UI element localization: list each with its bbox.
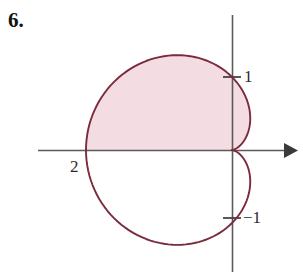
cardioid-curve-lower [86,150,250,245]
y-axis-label-negative-one: −1 [243,209,261,226]
cardioid-plot [0,0,303,279]
x-axis-label-two: 2 [70,158,79,175]
figure-container: 6. 1 −1 2 [0,0,303,279]
shaded-region [86,55,250,150]
y-axis-label-positive-one: 1 [244,68,253,85]
x-axis-arrow-icon [284,143,298,158]
